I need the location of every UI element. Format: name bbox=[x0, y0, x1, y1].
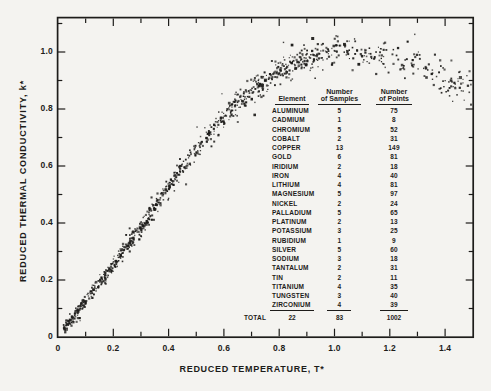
data-point bbox=[218, 111, 220, 113]
data-point bbox=[210, 138, 212, 140]
data-point bbox=[145, 214, 147, 216]
data-point bbox=[224, 115, 226, 117]
data-point bbox=[260, 94, 261, 95]
data-point bbox=[221, 93, 222, 94]
data-point bbox=[464, 100, 465, 101]
data-point bbox=[65, 330, 66, 331]
data-point bbox=[228, 102, 231, 105]
data-point bbox=[244, 96, 246, 98]
data-point bbox=[334, 50, 336, 52]
data-point bbox=[175, 172, 176, 173]
data-point bbox=[462, 82, 463, 83]
points-count: 65 bbox=[363, 208, 425, 217]
data-point bbox=[375, 73, 377, 75]
data-point bbox=[360, 53, 362, 55]
x-tick-label: 0.8 bbox=[273, 343, 285, 353]
data-point bbox=[282, 75, 284, 77]
data-point bbox=[396, 55, 398, 57]
data-point bbox=[284, 68, 286, 70]
data-point bbox=[452, 101, 453, 102]
data-point bbox=[310, 70, 311, 71]
data-point bbox=[142, 227, 144, 229]
data-point bbox=[118, 260, 120, 262]
data-point bbox=[428, 63, 430, 65]
x-tick-label: 0.2 bbox=[107, 343, 119, 353]
data-point bbox=[240, 95, 242, 97]
data-point bbox=[73, 321, 75, 323]
data-point bbox=[305, 57, 307, 59]
data-point bbox=[229, 109, 231, 111]
data-point bbox=[414, 56, 416, 58]
data-point bbox=[118, 250, 120, 252]
data-point bbox=[315, 55, 317, 57]
table-row: ZIRCONIUM439 bbox=[268, 300, 425, 309]
data-point bbox=[292, 78, 294, 80]
data-point bbox=[459, 87, 461, 89]
data-point bbox=[368, 53, 369, 54]
data-point bbox=[364, 55, 365, 56]
data-point bbox=[215, 121, 217, 123]
points-count: 60 bbox=[363, 245, 425, 254]
data-point bbox=[160, 193, 162, 195]
data-point bbox=[283, 42, 284, 43]
data-point bbox=[208, 130, 210, 132]
data-point bbox=[197, 150, 198, 151]
data-point bbox=[154, 207, 155, 208]
data-point bbox=[194, 149, 196, 151]
points-count: 40 bbox=[363, 291, 425, 300]
data-point bbox=[198, 142, 199, 143]
data-point bbox=[364, 49, 365, 50]
data-point bbox=[445, 91, 447, 93]
data-point bbox=[143, 217, 144, 218]
total-points: 1002 bbox=[363, 313, 425, 323]
data-point bbox=[176, 177, 177, 178]
data-point bbox=[70, 325, 72, 327]
data-point bbox=[168, 183, 169, 184]
element-name: CADMIUM bbox=[268, 115, 316, 124]
data-point bbox=[213, 141, 215, 143]
data-point bbox=[78, 305, 79, 306]
data-point bbox=[95, 290, 97, 292]
data-point bbox=[163, 192, 164, 193]
data-point bbox=[176, 172, 178, 174]
data-point bbox=[75, 307, 77, 309]
data-point bbox=[226, 110, 227, 111]
data-point bbox=[89, 292, 90, 293]
data-point bbox=[187, 163, 188, 164]
data-point bbox=[132, 241, 134, 243]
data-point bbox=[270, 82, 272, 84]
data-point bbox=[79, 309, 81, 311]
data-point bbox=[385, 67, 387, 69]
data-point bbox=[450, 85, 452, 87]
data-point bbox=[352, 47, 354, 49]
data-point bbox=[120, 248, 123, 251]
data-point bbox=[199, 154, 200, 155]
data-point bbox=[149, 207, 151, 209]
data-point bbox=[207, 133, 209, 135]
element-name: TITANIUM bbox=[268, 282, 316, 291]
data-point bbox=[149, 215, 151, 217]
data-point bbox=[258, 82, 259, 83]
data-point bbox=[104, 277, 106, 279]
data-point bbox=[381, 61, 382, 62]
data-point bbox=[438, 71, 440, 73]
data-point bbox=[258, 90, 260, 92]
data-point bbox=[223, 123, 225, 125]
data-point bbox=[84, 296, 86, 298]
data-point bbox=[114, 256, 115, 257]
table-row: POTASSIUM325 bbox=[268, 226, 425, 235]
table-row: SILVER560 bbox=[268, 245, 425, 254]
samples-count: 3 bbox=[316, 291, 363, 300]
data-point bbox=[467, 85, 469, 87]
data-point bbox=[165, 181, 167, 183]
data-point bbox=[453, 82, 455, 84]
data-point bbox=[363, 59, 365, 61]
data-point bbox=[139, 226, 141, 228]
data-point bbox=[200, 142, 202, 144]
data-point bbox=[388, 72, 390, 74]
data-point bbox=[247, 96, 249, 98]
column-header-points: Number of Points bbox=[363, 85, 425, 105]
data-point bbox=[271, 76, 273, 78]
data-point bbox=[93, 289, 95, 291]
data-point bbox=[290, 55, 291, 56]
